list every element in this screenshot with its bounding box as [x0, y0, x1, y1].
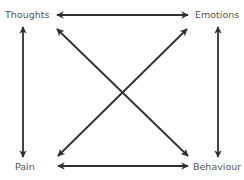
arrows-layer — [0, 0, 244, 180]
node-thoughts-label: Thoughts — [5, 10, 49, 20]
pain-cycle-diagram: Thoughts Emotions Pain Behaviour — [0, 0, 244, 180]
node-behaviour-label: Behaviour — [193, 162, 241, 172]
node-emotions-label: Emotions — [195, 10, 239, 20]
node-pain-label: Pain — [15, 162, 35, 172]
